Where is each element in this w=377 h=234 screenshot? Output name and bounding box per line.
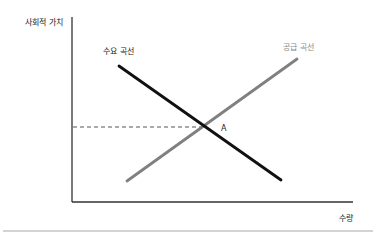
demand-curve-line bbox=[119, 66, 281, 180]
y-axis-label: 사회적 가치 bbox=[25, 18, 63, 28]
supply-curve-label: 공급 곡선 bbox=[283, 43, 314, 53]
x-axis-label: 수량 bbox=[339, 214, 353, 224]
equilibrium-label: A bbox=[221, 124, 226, 134]
bottom-divider bbox=[3, 230, 373, 232]
supply-demand-diagram bbox=[0, 0, 377, 234]
supply-curve-line bbox=[127, 59, 297, 181]
demand-curve-label: 수요 곡선 bbox=[103, 47, 134, 57]
